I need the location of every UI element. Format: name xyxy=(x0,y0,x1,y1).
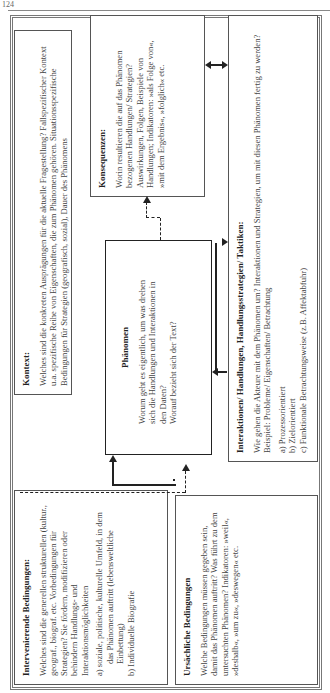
arrow-head-icon xyxy=(222,238,228,246)
kontext-box: Kontext: Welches sind die konkreten Ausp… xyxy=(14,30,72,395)
arrow-ursaechliche-phaenomen-h xyxy=(112,462,114,486)
ursaechliche-text: Welche Bedingungen müssen gegeben sein, … xyxy=(199,504,241,676)
intervenierende-box: Intervenierende Bedingungen: Welches sin… xyxy=(14,490,168,685)
intervenierende-title: Intervenierende Bedingungen: xyxy=(21,499,32,676)
arrow-ursaechliche-phaenomen-v xyxy=(112,484,176,486)
arrow-line xyxy=(173,479,175,481)
konsequenzen-text: Worin resultieren die auf das Phänomen b… xyxy=(114,24,166,188)
arrow-head-icon xyxy=(143,196,151,203)
interaktionen-item: a) Prozessorientiert xyxy=(277,24,287,453)
interaktionen-item: b) Zielorientiert xyxy=(287,24,297,453)
phaenomen-box: Phänomen Worum geht es eigentlich, um wa… xyxy=(105,240,212,455)
interaktionen-box: Interaktionen/ Handlungen, Handlungsstra… xyxy=(228,15,318,462)
interaktionen-text: Wie gehen die Akteure mit dem Phänomen u… xyxy=(252,24,273,453)
arrow-phaenomen-konsequenzen-dashed-v xyxy=(146,217,160,218)
arrow-head-icon xyxy=(182,464,190,471)
intervenierende-item: a) soziale, politische, kulturelle Umfel… xyxy=(94,499,125,676)
arrow-intervenierende-dashed-v xyxy=(20,492,185,493)
kontext-text: Welches sind die konkreten Ausprägungen … xyxy=(38,39,69,386)
phaenomen-text-1: Worum geht es eigentlich, um was drehen … xyxy=(137,271,168,424)
arrow-intervenierende-dashed-h xyxy=(185,471,186,493)
interaktionen-title: Interaktionen/ Handlungen, Handlungsstra… xyxy=(235,24,246,453)
arrow-phaenomen-konsequenzen-dashed-h xyxy=(146,202,147,218)
phaenomen-title: Phänomen xyxy=(120,249,131,446)
konsequenzen-title: Konsequenzen: xyxy=(97,24,108,188)
arrow-head-icon xyxy=(212,368,218,376)
phaenomen-text-2: Worauf bezieht sich der Text? xyxy=(168,271,178,424)
interaktionen-item: c) Funktionale Betrachtungsweise (z.B. A… xyxy=(298,24,308,453)
arrow-head-icon xyxy=(109,455,117,462)
paradigm-diagram: Kontext: Welches sind die konkreten Ausp… xyxy=(0,0,330,693)
konsequenzen-box: Konsequenzen: Worin resultieren die auf … xyxy=(90,15,205,197)
arrow-head-icon xyxy=(222,61,228,69)
kontext-title: Kontext: xyxy=(21,39,32,386)
arrow-head-icon xyxy=(205,61,211,69)
arrow-phaenomen-konsequenzen-dashed xyxy=(160,218,161,240)
arrow-phaenomen-interaktionen-h xyxy=(215,243,217,373)
ursaechliche-box: Ursächliche Bedingungen Welche Bedingung… xyxy=(175,495,318,685)
ursaechliche-title: Ursächliche Bedingungen xyxy=(182,504,193,676)
intervenierende-item: b) Individuelle Biografie xyxy=(126,499,136,676)
intervenierende-text: Welches sind die generellen strukturelle… xyxy=(38,499,90,676)
